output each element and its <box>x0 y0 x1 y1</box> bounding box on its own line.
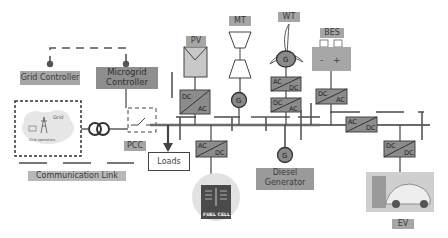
ev-converter: DC DC <box>384 141 415 157</box>
bus-link-converter: AC DC <box>346 117 377 132</box>
pv-converter: DC AC <box>180 90 210 114</box>
pcc-label: PCC <box>124 141 146 151</box>
microgrid-diagram: Grid Grid operators <box>0 0 448 238</box>
svg-text:DC: DC <box>215 149 225 157</box>
svg-text:G: G <box>283 56 288 64</box>
microgrid-controller-line1: Microgrid <box>96 67 158 77</box>
diesel-generator-icon: G <box>278 148 293 163</box>
communication-link-label: Communication Link <box>28 171 126 181</box>
microgrid-controller-line2: Controller <box>96 77 158 87</box>
wt-label: WT <box>278 12 300 22</box>
transformer-icon <box>89 123 109 135</box>
grid-text: Grid <box>53 114 64 120</box>
svg-text:DC: DC <box>404 149 414 157</box>
ev-label: EV <box>392 219 414 229</box>
loads-arrow-icon <box>163 143 173 152</box>
svg-text:AC: AC <box>198 105 207 113</box>
pv-panel-icon <box>184 47 207 77</box>
svg-text:DC: DC <box>273 99 283 107</box>
loads-box: Loads <box>148 152 190 171</box>
grid-operators-text: Grid operators <box>29 138 55 142</box>
diesel-line1: Diesel <box>256 168 314 178</box>
svg-text:AC: AC <box>348 118 357 126</box>
svg-text:AC: AC <box>273 78 282 86</box>
ev-charging-image <box>366 172 434 212</box>
svg-text:DC: DC <box>182 93 192 101</box>
fuel-cell-image: FUEL CELL <box>192 173 240 221</box>
svg-text:AC: AC <box>289 105 298 113</box>
svg-text:G: G <box>236 97 241 105</box>
battery-icon: - + <box>312 40 351 71</box>
svg-text:G: G <box>282 152 287 160</box>
svg-text:AC: AC <box>336 96 345 104</box>
mt-label: MT <box>229 16 251 26</box>
grid-controller-label: Grid Controller <box>20 71 80 85</box>
pcc-switch-icon <box>131 118 152 125</box>
bes-converter: DC AC <box>316 89 347 104</box>
svg-text:DC: DC <box>366 124 376 132</box>
svg-text:DC: DC <box>289 84 299 92</box>
microgrid-controller-label: Microgrid Controller <box>96 67 158 89</box>
communication-link-line <box>48 48 129 66</box>
svg-text:AC: AC <box>198 142 207 150</box>
svg-text:FUEL CELL: FUEL CELL <box>203 212 230 217</box>
bes-label: BES <box>320 28 344 38</box>
wt-converter-dc-ac: DC AC <box>271 98 301 113</box>
fuel-cell-converter: AC DC <box>196 141 227 157</box>
diesel-generator-label: Diesel Generator <box>256 168 314 190</box>
pv-label: PV <box>186 36 206 46</box>
svg-text:-: - <box>320 55 323 65</box>
svg-text:DC: DC <box>318 90 328 98</box>
wt-converter-ac-dc: AC DC <box>271 77 301 92</box>
svg-text:DC: DC <box>386 142 396 150</box>
wt-generator-icon: G <box>277 51 296 67</box>
micro-turbine-icon <box>229 32 251 78</box>
mt-generator-icon: G <box>232 93 247 108</box>
svg-text:+: + <box>333 55 341 65</box>
pcc-box <box>128 108 156 132</box>
diesel-line2: Generator <box>256 178 314 188</box>
